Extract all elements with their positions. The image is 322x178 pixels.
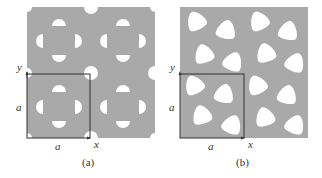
y-axis-label-b: y [170, 62, 175, 73]
panel-b: y a a x (b) [161, 0, 322, 178]
panel-a: y a a x (a) [0, 0, 161, 178]
panel-b-lattice [161, 0, 322, 178]
x-axis-label-a: x [94, 139, 99, 150]
side-length-label-b: a [169, 102, 175, 113]
caption-a: (a) [82, 157, 94, 168]
side-length-label-a: a [16, 102, 22, 113]
bottom-length-label-b: a [208, 141, 214, 152]
caption-b: (b) [236, 157, 249, 168]
bottom-length-label-a: a [55, 141, 61, 152]
x-axis-label-b: x [248, 139, 253, 150]
y-axis-label-a: y [17, 62, 22, 73]
panel-a-lattice [0, 0, 161, 178]
